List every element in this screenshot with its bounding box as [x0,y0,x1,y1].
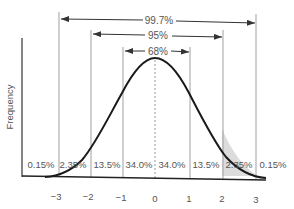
label-68: 68% [148,46,168,57]
x-axis [22,176,266,180]
segment-label: 2.35% [226,159,253,170]
label-997: 99.7% [145,15,173,26]
segment-label: 34.0% [159,159,186,170]
segment-labels: 0.15% 2.35% 13.5% 34.0% 34.0% 13.5% 2.35… [28,159,287,170]
x-tick: 2 [219,193,224,204]
x-tick: 1 [186,193,191,204]
x-tick: 0 [152,193,157,204]
segment-label: 2.35% [60,159,87,170]
label-95: 95% [148,30,168,41]
segment-label: 34.0% [126,159,153,170]
x-tick: −1 [116,192,127,203]
normal-distribution-chart: 99.7% 95% 68% Frequency 0.15% 2.35% 13.5… [0,0,294,209]
segment-label: 0.15% [28,159,55,170]
x-tick: −2 [83,191,94,202]
x-tick-labels: −3 −2 −1 0 1 2 3 [51,191,259,205]
x-tick: −3 [51,191,62,202]
y-axis-label: Frequency [4,84,15,129]
segment-label: 13.5% [94,159,121,170]
x-tick: 3 [253,194,258,205]
segment-label: 13.5% [193,159,220,170]
segment-label: 0.15% [260,159,287,170]
